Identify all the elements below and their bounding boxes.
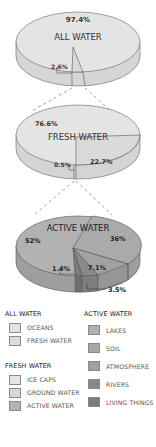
legend-item-soil: SOIL (88, 339, 154, 357)
fresh-water-swatch (9, 336, 21, 346)
legend-item-fresh-water: FRESH WATER (9, 334, 72, 347)
legend-label: GROUND WATER (27, 389, 80, 396)
pie-fresh-icecaps-label: 76.6% (35, 120, 58, 128)
ice-caps-swatch (9, 375, 21, 385)
legend-label: ATMOSPHERE (106, 363, 149, 370)
legend-item-atmosphere: ATMOSPHERE (88, 357, 154, 375)
pie-active-living-label: 1.4% (52, 265, 71, 273)
legend-item-active-water: ACTIVE WATER (9, 399, 80, 412)
legend-item-lakes: LAKES (88, 321, 154, 339)
legend-label: LAKES (106, 327, 126, 334)
legend-item-ground-water: GROUND WATER (9, 386, 80, 399)
pie-all-fresh-label: 2.6% (51, 63, 68, 70)
living-things-swatch (88, 397, 100, 407)
pie-active-water: ACTIVE WATER 52% 36% 7.1% 1.4% 3.5% (16, 216, 141, 294)
pie-active-rivers-label: 3.5% (108, 286, 127, 294)
legend-fresh-water-header: FRESH WATER (5, 362, 80, 370)
legend-all-water-header: ALL WATER (5, 310, 72, 318)
legend-fresh-water: FRESH WATER ICE CAPS GROUND WATER ACTIVE… (5, 362, 80, 412)
pie-all-water: 97.4% ALL WATER 2.6% (16, 12, 140, 86)
rivers-swatch (88, 379, 100, 389)
legend-item-rivers: RIVERS (88, 375, 154, 393)
atmosphere-swatch (88, 361, 100, 371)
pie-active-title: ACTIVE WATER (47, 223, 110, 233)
legend-item-ice-caps: ICE CAPS (9, 373, 80, 386)
legend-label: ICE CAPS (27, 376, 56, 383)
legend-all-water: ALL WATER OCEANS FRESH WATER (5, 310, 72, 347)
legend-label: RIVERS (106, 381, 129, 388)
legend-label: ACTIVE WATER (27, 402, 74, 409)
legend-label: LIVING THINGS (106, 399, 154, 406)
pie-active-soil-label: 36% (110, 235, 126, 243)
legend-active-water: ACTIVE WATER LAKES SOIL ATMOSPHERE RIVER… (84, 310, 154, 411)
pie-active-lakes-label: 52% (25, 237, 41, 245)
pie-fresh-ground-label: 22.7% (90, 158, 113, 166)
pie-all-title: ALL WATER (54, 32, 102, 42)
pie-fresh-water: 76.6% FRESH WATER 22.7% 0.5% (16, 105, 140, 179)
pie-all-oceans-label: 97.4% (66, 16, 90, 24)
legend-item-oceans: OCEANS (9, 321, 72, 334)
pie-charts: 97.4% ALL WATER 2.6% 76.6% FRESH WATER 2… (0, 0, 156, 310)
legend-label: OCEANS (27, 324, 54, 331)
legend-label: FRESH WATER (27, 337, 72, 344)
pie-fresh-title: FRESH WATER (48, 132, 108, 142)
legend-label: SOIL (106, 345, 120, 352)
ground-water-swatch (9, 388, 21, 398)
active-water-swatch (9, 401, 21, 411)
legend-active-water-header: ACTIVE WATER (84, 310, 154, 318)
pie-active-atmosphere-label: 7.1% (88, 264, 107, 272)
legend-item-living-things: LIVING THINGS (88, 393, 154, 411)
connector-lines-2 (34, 181, 112, 215)
pie-fresh-active-label: 0.5% (54, 161, 71, 168)
lakes-swatch (88, 325, 100, 335)
soil-swatch (88, 343, 100, 353)
oceans-swatch (9, 323, 21, 333)
